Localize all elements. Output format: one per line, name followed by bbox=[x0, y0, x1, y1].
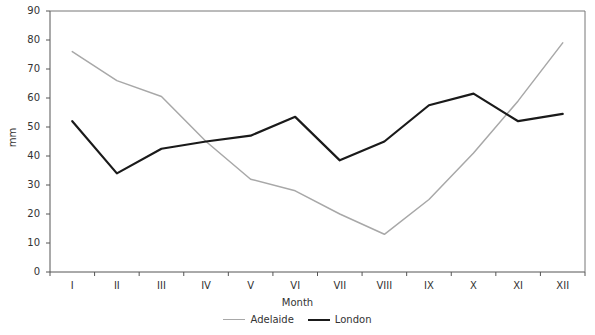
chart-legend: AdelaideLondon bbox=[0, 314, 595, 325]
y-tick-label: 40 bbox=[14, 151, 40, 161]
x-axis-title: Month bbox=[0, 297, 595, 308]
x-tick-label: X bbox=[454, 281, 494, 291]
x-tick-label: XII bbox=[543, 281, 583, 291]
y-tick-label: 90 bbox=[14, 6, 40, 16]
y-axis-title: mm bbox=[7, 118, 18, 158]
y-tick-label: 0 bbox=[14, 267, 40, 277]
legend-item-adelaide: Adelaide bbox=[223, 314, 293, 325]
legend-item-london: London bbox=[308, 314, 372, 325]
x-tick-label: VI bbox=[275, 281, 315, 291]
y-tick-label: 80 bbox=[14, 35, 40, 45]
line-chart: 0102030405060708090 IIIIIIIVVVIVIIVIIIIX… bbox=[0, 0, 595, 335]
x-tick-label: VII bbox=[320, 281, 360, 291]
y-tick-label: 70 bbox=[14, 64, 40, 74]
y-axis-ticks bbox=[46, 11, 50, 272]
legend-swatch-icon bbox=[308, 319, 330, 321]
y-tick-label: 50 bbox=[14, 122, 40, 132]
x-tick-label: II bbox=[97, 281, 137, 291]
x-tick-label: IX bbox=[409, 281, 449, 291]
x-tick-label: VIII bbox=[364, 281, 404, 291]
legend-swatch-icon bbox=[223, 319, 245, 320]
y-tick-label: 30 bbox=[14, 180, 40, 190]
x-tick-label: III bbox=[141, 281, 181, 291]
y-tick-label: 10 bbox=[14, 238, 40, 248]
x-axis-ticks bbox=[50, 272, 585, 276]
axis-lines bbox=[50, 11, 585, 272]
x-tick-label: V bbox=[231, 281, 271, 291]
x-tick-label: IV bbox=[186, 281, 226, 291]
data-series-lines bbox=[72, 43, 562, 234]
y-tick-label: 60 bbox=[14, 93, 40, 103]
y-tick-label: 20 bbox=[14, 209, 40, 219]
x-tick-label: XI bbox=[498, 281, 538, 291]
legend-label: London bbox=[335, 314, 372, 325]
series-line-london bbox=[72, 94, 562, 174]
legend-label: Adelaide bbox=[250, 314, 293, 325]
x-tick-label: I bbox=[52, 281, 92, 291]
